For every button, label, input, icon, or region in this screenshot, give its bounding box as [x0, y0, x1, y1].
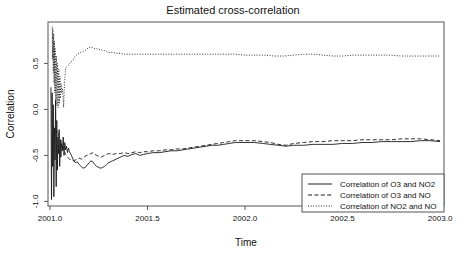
chart-container: Estimated cross-correlation 0.50.0-0.5-1…	[0, 0, 466, 255]
x-axis-title: Time	[235, 237, 257, 248]
cross-correlation-chart: Estimated cross-correlation 0.50.0-0.5-1…	[0, 0, 466, 255]
y-tick-label: 0.5	[31, 57, 40, 69]
x-tick-label: 2001.0	[38, 214, 63, 223]
y-axis-title: Correlation	[5, 90, 16, 139]
x-tick-label: 2003.0	[428, 214, 453, 223]
x-tick-label: 2002.0	[233, 214, 258, 223]
series-line-1	[56, 130, 440, 161]
y-tick-label: -1.0	[31, 194, 40, 208]
series-line-2	[52, 27, 440, 108]
chart-legend[interactable]: Correlation of O3 and NO2Correlation of …	[302, 174, 444, 212]
x-tick-label: 2002.5	[330, 214, 355, 223]
chart-title: Estimated cross-correlation	[166, 4, 299, 16]
y-axis-ticks: 0.50.0-0.5-1.0	[31, 57, 48, 208]
legend-label-1[interactable]: Correlation of O3 and NO	[340, 191, 431, 200]
y-tick-label: 0.0	[31, 103, 40, 115]
legend-label-2[interactable]: Correlation of NO2 and NO	[340, 202, 437, 211]
y-tick-label: -0.5	[31, 148, 40, 162]
x-tick-label: 2001.5	[135, 214, 160, 223]
legend-label-0[interactable]: Correlation of O3 and NO2	[340, 180, 436, 189]
